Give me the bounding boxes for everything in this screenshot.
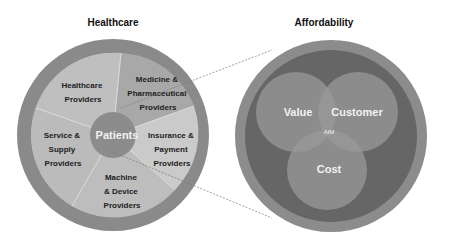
- venn-value-label: Value: [284, 106, 313, 118]
- venn-cost-label: Cost: [317, 163, 342, 175]
- segment-label-service: Service & Supply Providers: [44, 131, 83, 168]
- venn-customer-label: Customer: [331, 106, 383, 118]
- healthcare-affordability-diagram: Healthcare Patients Healthcare Providers…: [0, 0, 449, 252]
- affordability-title: Affordability: [295, 17, 354, 28]
- venn-aim-label: AIM: [324, 129, 335, 135]
- healthcare-title: Healthcare: [87, 17, 139, 28]
- patients-label: Patients: [96, 129, 139, 141]
- segment-label-insurance: Insurance & Payment Providers: [148, 131, 196, 168]
- segment-label-machine: Machine & Device Providers: [104, 173, 141, 210]
